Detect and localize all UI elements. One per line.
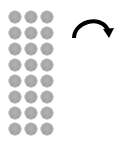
circle-dot [9,75,21,87]
curved-clockwise-arrow-icon [70,16,116,40]
circle-dot [41,11,53,23]
circle-dot [9,11,21,23]
circle-dot [25,75,37,87]
dot-grid [9,11,53,135]
circle-dot [25,91,37,103]
circle-dot [9,91,21,103]
circle-dot [41,59,53,71]
circle-dot [41,75,53,87]
circle-dot [41,91,53,103]
circle-dot [25,107,37,119]
circle-dot [25,11,37,23]
circle-dot [9,123,21,135]
circle-dot [9,59,21,71]
circle-dot [9,107,21,119]
circle-dot [9,43,21,55]
circle-dot [41,107,53,119]
circle-dot [41,123,53,135]
circle-dot [25,59,37,71]
circle-dot [25,27,37,39]
circle-dot [25,123,37,135]
circle-dot [41,43,53,55]
circle-dot [25,43,37,55]
circle-dot [9,27,21,39]
circle-dot [41,27,53,39]
